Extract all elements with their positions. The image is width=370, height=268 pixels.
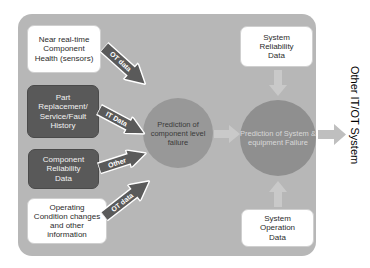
box-line: Replacement/ [38, 102, 87, 111]
circle-line: component [151, 129, 188, 138]
arrow-system-operation-to-circle2 [269, 181, 287, 207]
diagram-canvas: Near real-time Component Health (sensors… [0, 0, 370, 268]
box-near-real-time-component-health[interactable]: Near real-time Component Health (sensors… [27, 25, 101, 73]
circle-line: Prediction of [240, 129, 282, 138]
box-line: Component [35, 44, 94, 53]
box-system-operation-data[interactable]: System Operation Data [241, 209, 314, 247]
circle-line: Prediction of [157, 120, 199, 129]
label-other-it-ot-system: Other IT/OT System [349, 66, 361, 164]
box-line: Part [38, 93, 87, 102]
arrow-to-other-it-ot-system [318, 124, 346, 145]
box-system-reliability-data[interactable]: System Reliability Data [240, 26, 313, 67]
box-line: System [260, 214, 295, 223]
box-line: Health (sensors) [35, 54, 94, 63]
box-line: Data [259, 51, 293, 60]
box-line: History [38, 121, 87, 130]
arrow-shape [318, 124, 346, 145]
circle-line: equipment [248, 138, 283, 147]
circle-prediction-system-equipment-failure[interactable]: Prediction of System & equipment Failure [240, 100, 316, 176]
box-line: Operating [34, 203, 100, 212]
box-line: Data [43, 174, 84, 183]
box-part-replacement-service-fault-history[interactable]: Part Replacement/ Service/Fault History [27, 85, 99, 138]
box-line: and other [34, 221, 100, 230]
arrow-shape [214, 125, 240, 143]
box-line: Near real-time [35, 35, 94, 44]
box-line: Condition changes [34, 212, 100, 221]
arrow-shape [269, 181, 287, 207]
circle-line: Failure [285, 138, 308, 147]
box-line: information [34, 230, 100, 239]
box-line: System [259, 33, 293, 42]
box-line: Reliability [259, 42, 293, 51]
box-operating-condition-changes[interactable]: Operating Condition changes and other in… [27, 198, 107, 244]
circle-line: System & [284, 129, 316, 138]
circle-prediction-component-level-failure[interactable]: Prediction of component level failure [143, 98, 213, 168]
box-line: Service/Fault [38, 112, 87, 121]
arrow-system-reliability-to-circle2 [269, 70, 287, 96]
box-line: Component [43, 155, 84, 164]
arrow-shape [269, 70, 287, 96]
arrow-circle1-to-circle2 [214, 125, 240, 143]
box-line: Reliability [43, 164, 84, 173]
box-line: Operation [260, 223, 295, 232]
box-component-reliability-data[interactable]: Component Reliability Data [28, 149, 99, 189]
label-text: Other IT/OT System [349, 66, 361, 164]
box-line: Data [260, 233, 295, 242]
